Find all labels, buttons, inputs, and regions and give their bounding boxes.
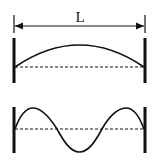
- standing-wave-diagram: L: [0, 0, 154, 161]
- right-fixed-end: [144, 107, 147, 153]
- left-fixed-end: [13, 107, 16, 153]
- left-fixed-end: [13, 38, 16, 83]
- arrow-right-icon: [136, 23, 144, 30]
- length-label: L: [75, 9, 84, 25]
- length-dimension: L: [14, 9, 145, 33]
- right-fixed-end: [144, 38, 147, 83]
- harmonic-wave: [15, 108, 144, 152]
- arrow-left-icon: [15, 23, 23, 30]
- fundamental-mode-panel: [13, 38, 147, 83]
- harmonic-mode-panel: [13, 107, 147, 153]
- fundamental-wave: [15, 45, 144, 67]
